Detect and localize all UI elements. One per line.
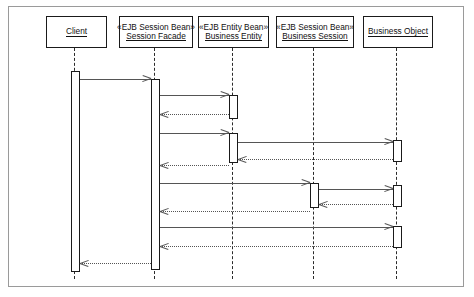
- lifeline-head-client[interactable]: Client: [46, 16, 107, 48]
- activation-bar-business-object[interactable]: [393, 140, 402, 162]
- activation-bar-business-object[interactable]: [393, 185, 402, 207]
- message-line: [319, 189, 393, 190]
- activation-bar-business-entity[interactable]: [229, 95, 238, 119]
- activation-bar-session-facade[interactable]: [151, 79, 160, 270]
- lifeline-name: Client: [66, 27, 87, 37]
- message-line: [80, 79, 151, 80]
- activation-bar-business-entity[interactable]: [229, 133, 238, 163]
- activation-bar-business-session[interactable]: [310, 183, 319, 208]
- message-line: [160, 183, 310, 184]
- message-line: [160, 114, 229, 115]
- message-line: [160, 133, 229, 134]
- message-line: [160, 246, 393, 247]
- message-line: [80, 263, 151, 264]
- lifeline-name: Business Object: [368, 27, 428, 37]
- sequence-diagram-canvas: Client«EJB Session Bean»Session Facade«E…: [0, 0, 474, 297]
- lifeline-name: Business Entity: [205, 32, 262, 42]
- lifeline-business-entity: [232, 48, 233, 279]
- lifeline-head-business-entity[interactable]: «EJB Entity Bean»Business Entity: [198, 16, 269, 48]
- activation-bar-client[interactable]: [71, 71, 80, 272]
- message-line: [160, 165, 229, 166]
- lifeline-head-business-object[interactable]: Business Object: [363, 16, 433, 48]
- lifeline-head-session-facade[interactable]: «EJB Session Bean»Session Facade: [119, 16, 193, 48]
- message-line: [238, 142, 393, 143]
- message-line: [238, 159, 393, 160]
- message-line: [319, 204, 393, 205]
- lifeline-business-session: [313, 48, 314, 279]
- lifeline-name: Session Facade: [126, 32, 186, 42]
- message-line: [160, 95, 229, 96]
- message-line: [160, 211, 310, 212]
- message-line: [160, 227, 393, 228]
- lifeline-head-business-session[interactable]: «EJB Session Bean»Business Session: [276, 16, 354, 48]
- activation-bar-business-object[interactable]: [393, 226, 402, 248]
- lifeline-name: Business Session: [282, 32, 348, 42]
